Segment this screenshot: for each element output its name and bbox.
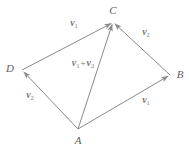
vertex-label-d: D [6, 63, 14, 74]
vector-label-a-to-b: v1 [142, 95, 150, 106]
vector-diagram-canvas [0, 0, 189, 146]
vector-line-a-to-c-resultant [78, 24, 112, 129]
vertex-label-c: C [109, 5, 116, 16]
plus-sign: + [79, 58, 86, 68]
vector-label-d-to-c: v1 [70, 18, 78, 29]
vector-label-a-to-c-resultant: v1+v2 [72, 58, 94, 69]
vector-line-d-to-c [22, 23, 111, 70]
vector-subscript: 2 [147, 31, 150, 38]
vector-subscript: 1 [147, 99, 150, 106]
vector-diagram-figure: A B C D v1 v2 v2 v1 v1+v2 [0, 0, 189, 146]
vector-subscript: 2 [91, 62, 94, 69]
vector-line-a-to-b [78, 76, 168, 129]
vertex-label-a: A [75, 135, 82, 146]
vector-label-a-to-d: v2 [26, 90, 34, 101]
vector-subscript: 1 [75, 22, 78, 29]
vector-subscript: 2 [31, 94, 34, 101]
vertex-label-b: B [177, 69, 184, 80]
vector-label-b-to-c: v2 [142, 27, 150, 38]
